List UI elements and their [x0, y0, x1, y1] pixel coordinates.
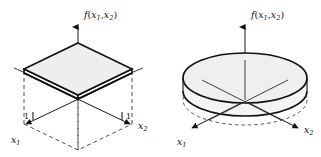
svg-text:x2: x2 [138, 120, 148, 133]
plate-top-face [24, 43, 132, 95]
svg-text:x1: x1 [11, 134, 21, 147]
axis-x2-label-left: x2 [138, 120, 148, 133]
axis-x2-label-right: x2 [304, 124, 314, 137]
left-panel-group: 1 1 f(x1,x2) x1 x2 [11, 9, 148, 150]
diagram-svg: 1 1 f(x1,x2) x1 x2 [0, 0, 321, 157]
svg-text:x2: x2 [304, 124, 314, 137]
axis-f-label-left: f(x1,x2) [83, 9, 117, 22]
paren-close-right: ) [280, 9, 284, 20]
svg-text:f(x1,x2): f(x1,x2) [250, 9, 284, 22]
axis-x1-label-right: x1 [177, 136, 187, 149]
right-panel-group: f(x1,x2) x1 x2 [177, 9, 314, 149]
x1-subscript-left: 1 [16, 139, 20, 147]
tick-label-left: 1 [24, 112, 29, 121]
svg-text:f(x1,x2): f(x1,x2) [83, 9, 117, 22]
svg-text:x1: x1 [177, 136, 187, 149]
axis-x1-label-left: x1 [11, 134, 21, 147]
axis-f-label-right: f(x1,x2) [250, 9, 284, 22]
tick-label-right: 1 [126, 112, 131, 121]
x2-subscript-right: 2 [308, 129, 313, 137]
figure-root: 1 1 f(x1,x2) x1 x2 [0, 0, 321, 157]
x1-subscript-right: 1 [182, 141, 186, 149]
paren-close-left: ) [113, 9, 117, 20]
x2-subscript-left: 2 [142, 125, 147, 133]
